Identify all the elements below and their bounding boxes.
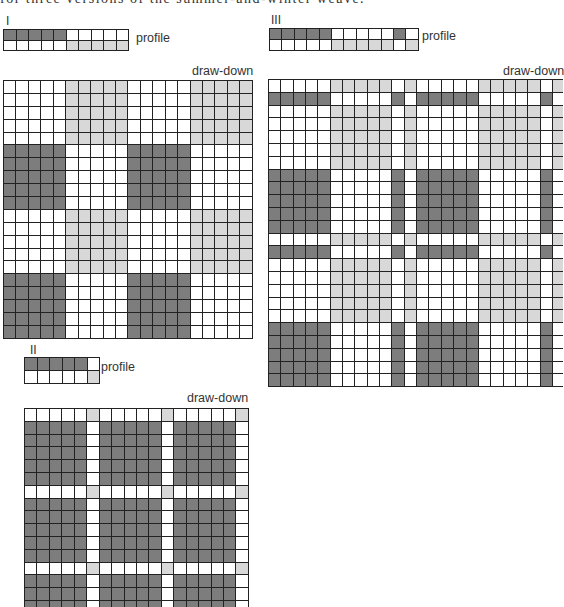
grid-cell — [491, 310, 503, 323]
grid-cell — [137, 511, 149, 524]
grid-cell — [318, 374, 330, 387]
grid-cell — [553, 285, 563, 298]
grid-cell — [87, 422, 99, 435]
grid-cell — [417, 259, 429, 272]
grid-cell — [306, 80, 318, 93]
grid-cell — [236, 601, 248, 607]
grid-cell — [87, 486, 99, 499]
grid-cell — [141, 223, 153, 236]
grid-cell — [16, 158, 28, 171]
grid-cell — [269, 131, 281, 144]
grid-cell — [54, 210, 66, 223]
grid-cell — [504, 144, 516, 157]
grid-cell — [112, 422, 124, 435]
grid-cell — [162, 550, 174, 563]
grid-cell — [380, 323, 392, 336]
grid-cell — [368, 80, 380, 93]
grid-cell — [332, 40, 344, 51]
grid-cell — [236, 409, 248, 422]
grid-cell — [212, 473, 224, 486]
grid-cell — [54, 171, 66, 184]
grid-cell — [306, 144, 318, 157]
grid-cell — [212, 575, 224, 588]
grid-cell — [137, 486, 149, 499]
grid-cell — [281, 285, 293, 298]
grid-cell — [4, 94, 16, 107]
grid-cell — [125, 473, 137, 486]
grid-cell — [240, 171, 252, 184]
grid-cell — [41, 300, 53, 313]
grid-cell — [442, 336, 454, 349]
grid-cell — [306, 170, 318, 183]
grid-cell — [149, 575, 161, 588]
grid-cell — [112, 537, 124, 550]
grid-cell — [141, 300, 153, 313]
grid-cell — [320, 29, 332, 40]
grid-cell — [162, 409, 174, 422]
grid-cell — [392, 80, 404, 93]
grid-cell — [112, 550, 124, 563]
grid-cell — [67, 41, 80, 52]
grid-cell — [116, 158, 128, 171]
grid-cell — [467, 259, 479, 272]
grid-cell — [212, 563, 224, 576]
grid-cell — [417, 144, 429, 157]
grid-cell — [281, 170, 293, 183]
panel-numeral-i: I — [6, 14, 9, 28]
grid-cell — [153, 133, 165, 146]
grid-cell — [318, 106, 330, 119]
grid-cell — [491, 246, 503, 259]
grid-cell — [141, 107, 153, 120]
grid-cell — [29, 249, 41, 262]
grid-cell — [479, 157, 491, 170]
grid-cell — [380, 93, 392, 106]
grid-cell — [454, 374, 466, 387]
grid-cell — [331, 170, 343, 183]
grid-cell — [228, 261, 240, 274]
grid-cell — [429, 259, 441, 272]
grid-cell — [281, 118, 293, 131]
grid-cell — [479, 272, 491, 285]
grid-cell — [269, 336, 281, 349]
grid-cell — [91, 197, 103, 210]
grid-cell — [16, 171, 28, 184]
grid-cell — [41, 249, 53, 262]
grid-cell — [281, 310, 293, 323]
grid-cell — [491, 195, 503, 208]
grid-cell — [541, 157, 553, 170]
grid-cell — [125, 588, 137, 601]
grid-cell — [149, 422, 161, 435]
grid-cell — [54, 274, 66, 287]
grid-cell — [491, 118, 503, 131]
grid-cell — [294, 272, 306, 285]
grid-cell — [355, 93, 367, 106]
grid-cell — [100, 563, 112, 576]
grid-cell — [380, 106, 392, 119]
grid-cell — [215, 223, 227, 236]
grid-cell — [16, 81, 28, 94]
grid-cell — [479, 221, 491, 234]
grid-cell — [294, 118, 306, 131]
grid-cell — [368, 131, 380, 144]
grid-cell — [203, 326, 215, 339]
grid-cell — [228, 287, 240, 300]
grid-cell — [75, 537, 87, 550]
grid-cell — [41, 223, 53, 236]
grid-cell — [228, 133, 240, 146]
grid-cell — [199, 435, 211, 448]
grid-cell — [355, 246, 367, 259]
grid-cell — [75, 409, 87, 422]
grid-cell — [75, 601, 87, 607]
grid-cell — [269, 298, 281, 311]
grid-cell — [29, 107, 41, 120]
grid-cell — [417, 285, 429, 298]
grid-cell — [369, 40, 381, 51]
grid-cell — [162, 563, 174, 576]
grid-cell — [368, 221, 380, 234]
grid-cell — [491, 234, 503, 247]
grid-cell — [187, 524, 199, 537]
grid-cell — [215, 94, 227, 107]
grid-cell — [187, 435, 199, 448]
grid-cell — [4, 313, 16, 326]
grid-cell — [75, 563, 87, 576]
